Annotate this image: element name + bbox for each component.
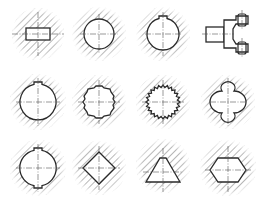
figure-two-key-shaft (10, 140, 66, 196)
figure-straight-spline (72, 75, 126, 129)
figure-rectangular-key (12, 8, 64, 60)
figure-round-shaft (72, 7, 126, 61)
figure-triangular-profile (136, 139, 190, 193)
figure-single-key-shaft (10, 74, 66, 130)
shaft-hub-diagram (0, 0, 265, 203)
figure-lobed-profile (201, 75, 255, 129)
figure-square-profile (72, 141, 126, 195)
figure-keyed-round-shaft (136, 7, 190, 61)
figure-serrated-spline (136, 75, 190, 129)
figure-hexagonal-profile (200, 140, 256, 196)
figure-fork-clevis (202, 10, 248, 58)
